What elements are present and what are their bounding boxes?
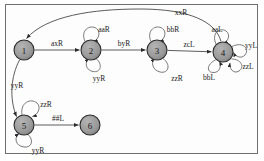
state-node-5[interactable]: 5 <box>14 115 34 135</box>
state-node-6[interactable]: 6 <box>80 115 100 135</box>
state-diagram: axR byR zcL xxR yyR ##L aaR <box>0 0 264 161</box>
transition-4-to-1-label: xxR <box>175 8 188 17</box>
state-node-3-label: 3 <box>155 46 160 56</box>
self-loop-5-zzR: zzR <box>22 100 52 117</box>
self-loop-3-zzR: zzR <box>153 59 183 83</box>
transition-1-to-5: yyR <box>11 60 24 117</box>
self-loop-4-zzL: zzL <box>230 59 254 72</box>
self-loop-2-yyR-label: yyR <box>93 74 106 83</box>
self-loop-3-bbR: bbR <box>150 25 180 42</box>
self-loop-2-yyR: yyR <box>86 59 105 83</box>
self-loop-3-zzR-label: zzR <box>171 74 183 83</box>
self-loop-3-bbR-label: bbR <box>167 25 180 34</box>
state-node-4[interactable]: 4 <box>213 42 233 62</box>
self-loop-5-zzR-arrow <box>22 101 39 117</box>
state-node-4-label: 4 <box>221 48 226 58</box>
self-loop-5-zzR-label: zzR <box>40 100 52 109</box>
self-loop-5-yyR: yyR <box>16 134 44 155</box>
self-loop-4-bbL-arrow <box>208 60 220 73</box>
state-node-1-label: 1 <box>22 46 27 56</box>
transition-3-to-4: zcL <box>168 40 212 52</box>
transition-2-to-3: byR <box>102 39 146 51</box>
transition-3-to-4-label: zcL <box>183 40 195 49</box>
self-loop-4-bbL-label: bbL <box>203 73 216 82</box>
self-loop-4-aaL: aaL <box>211 25 228 45</box>
state-node-3[interactable]: 3 <box>147 40 167 60</box>
state-node-1[interactable]: 1 <box>14 40 34 60</box>
transition-1-to-5-label: yyR <box>11 81 24 90</box>
self-loop-5-yyR-label: yyR <box>32 146 45 155</box>
transition-4-to-1: xxR <box>27 8 222 42</box>
self-loop-4-yyL-label: yyL <box>245 41 258 50</box>
transition-4-to-1-arrow <box>27 9 222 42</box>
self-loop-2-yyR-arrow <box>86 59 100 72</box>
state-node-6-label: 6 <box>88 121 93 131</box>
self-loop-2-aaR: aaR <box>84 25 110 42</box>
self-loop-4-zzL-arrow <box>230 59 242 72</box>
transition-3-to-4-arrow <box>168 50 212 51</box>
transition-2-to-3-label: byR <box>118 39 131 48</box>
self-loop-4-zzL-label: zzL <box>242 62 254 71</box>
transition-1-to-2: axR <box>35 39 80 51</box>
state-node-2-label: 2 <box>89 46 94 56</box>
self-loop-4-bbL: bbL <box>203 60 220 82</box>
self-loop-4-yyL: yyL <box>232 41 257 58</box>
transition-5-to-6-label: ##L <box>52 114 65 123</box>
self-loop-2-aaR-label: aaR <box>98 25 110 34</box>
self-loop-3-zzR-arrow <box>153 59 168 73</box>
self-loop-3-bbR-arrow <box>150 27 165 41</box>
transition-1-to-2-label: axR <box>51 39 63 48</box>
transition-5-to-6: ##L <box>35 114 79 126</box>
state-node-2[interactable]: 2 <box>81 40 101 60</box>
self-loop-4-aaL-label: aaL <box>211 25 223 34</box>
state-node-5-label: 5 <box>22 121 27 131</box>
self-loop-2-aaR-arrow <box>84 27 99 41</box>
diagram-canvas: axR byR zcL xxR yyR ##L aaR <box>0 0 264 161</box>
